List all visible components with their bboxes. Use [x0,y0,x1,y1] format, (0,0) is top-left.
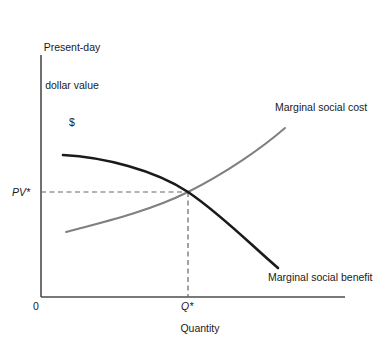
y-axis-title-line-2: dollar value [26,79,118,92]
y-axis-tick-label-pv: PV* [12,186,30,199]
y-axis-title-line-3: $ [26,116,118,129]
x-axis-tick-label-q: Q* [181,300,193,313]
y-axis-title-line-1: Present-day [26,41,118,54]
origin-label: 0 [33,300,39,313]
marginal-social-benefit-curve [63,155,278,268]
chart-figure: Present-day dollar value $ Quantity 0 PV… [0,0,392,345]
x-axis-title: Quantity [150,322,250,335]
marginal-social-benefit-label: Marginal social benefit [268,271,372,284]
y-axis-title: Present-day dollar value $ [26,16,118,154]
marginal-social-cost-label: Marginal social cost [275,101,367,114]
